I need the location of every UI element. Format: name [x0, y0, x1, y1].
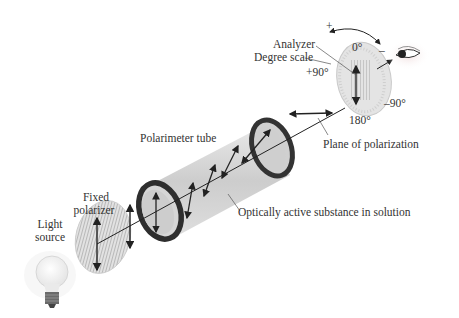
label-fixed-polarizer-line1: Fixed	[76, 191, 116, 204]
label-plane-of-polarization: Plane of polarization	[323, 138, 419, 151]
diagram-graphics	[0, 0, 459, 318]
label-deg-180: 180°	[349, 114, 371, 127]
label-fixed-polarizer-line2: polarizer	[64, 204, 124, 217]
label-polarimeter-tube: Polarimeter tube	[140, 132, 216, 145]
label-optically-active-substance: Optically active substance in solution	[238, 206, 410, 219]
label-light-source-line1: Light	[30, 218, 70, 231]
label-deg-plus90: +90°	[306, 66, 329, 79]
label-degree-scale: Degree scale	[254, 51, 313, 64]
label-deg-minus90: –90°	[384, 97, 406, 110]
label-deg-0: 0°	[352, 41, 362, 54]
label-plus-sign: +	[326, 20, 333, 33]
label-light-source-line2: source	[28, 231, 72, 244]
eye-icon	[386, 40, 430, 70]
label-analyzer: Analyzer	[273, 38, 315, 51]
label-minus-sign: –	[379, 44, 385, 57]
polarimeter-diagram: Analyzer Degree scale 0° +90° –90° 180° …	[0, 0, 459, 318]
light-bulb-icon	[24, 251, 76, 308]
